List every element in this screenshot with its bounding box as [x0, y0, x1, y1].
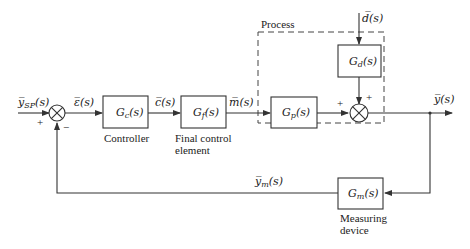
output-label: y̅(s) — [433, 93, 454, 106]
feedback-to-sensor-line — [385, 113, 430, 193]
final-control-caption-1: Final control — [175, 132, 232, 144]
summing-junction-1 — [49, 105, 65, 121]
manipulated-label: m̅(s) — [229, 96, 254, 109]
final-control-caption-2: element — [175, 144, 210, 156]
measured-label: y̅m(s) — [254, 175, 283, 189]
sum1-plus-sign: + — [37, 116, 43, 128]
error-label: ε̅(s) — [74, 96, 94, 109]
process-group-label: Process — [261, 18, 295, 30]
measuring-caption-2: device — [340, 224, 369, 236]
controller-caption: Controller — [104, 132, 150, 144]
sum2-plus-process: + — [337, 97, 343, 109]
controller-tf: Gc(s) — [116, 106, 144, 120]
disturbance-label: d̅(s) — [362, 11, 383, 25]
setpoint-label: y̅SP(s) — [17, 96, 49, 110]
disturbance-tf: Gd(s) — [349, 55, 377, 69]
summing-junction-2 — [350, 104, 368, 122]
sum1-minus-sign: − — [63, 121, 69, 133]
block-diagram: Process y̅SP(s) + − ε̅(s) Gc(s) Controll… — [0, 0, 470, 249]
measuring-caption-1: Measuring — [340, 212, 388, 224]
controller-output-label: c̅(s) — [155, 96, 175, 109]
sum2-plus-disturbance: + — [366, 91, 372, 103]
final-control-tf: Gf(s) — [193, 106, 219, 120]
process-tf: Gp(s) — [282, 106, 310, 120]
